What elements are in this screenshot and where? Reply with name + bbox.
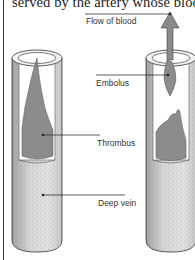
label-thrombus: Thrombus xyxy=(97,138,135,148)
label-embolus: Embolus xyxy=(96,78,129,88)
dvt-diagram xyxy=(0,0,195,260)
label-flow-of-blood: Flow of blood xyxy=(86,16,137,26)
vein-right xyxy=(85,12,195,252)
label-deep-vein: Deep vein xyxy=(98,198,136,208)
